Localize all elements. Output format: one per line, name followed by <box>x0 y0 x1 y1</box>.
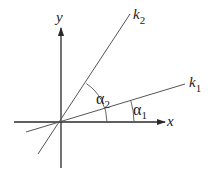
y-axis-label: y <box>54 9 63 25</box>
alpha2-label-sub: 2 <box>104 98 110 110</box>
line-k2 <box>38 14 130 154</box>
k1-label: k1 <box>189 74 201 94</box>
x-axis-label: x <box>166 113 174 129</box>
k2-label: k2 <box>133 6 145 26</box>
k2-label-sub: 2 <box>140 14 146 26</box>
alpha2-label: α2 <box>96 90 110 110</box>
alpha1-label-sub: 1 <box>141 109 147 121</box>
k1-label-sub: 1 <box>196 82 202 94</box>
coordinate-diagram: y x k2 k1 α2 α1 <box>0 0 215 175</box>
alpha1-label: α1 <box>133 101 147 121</box>
